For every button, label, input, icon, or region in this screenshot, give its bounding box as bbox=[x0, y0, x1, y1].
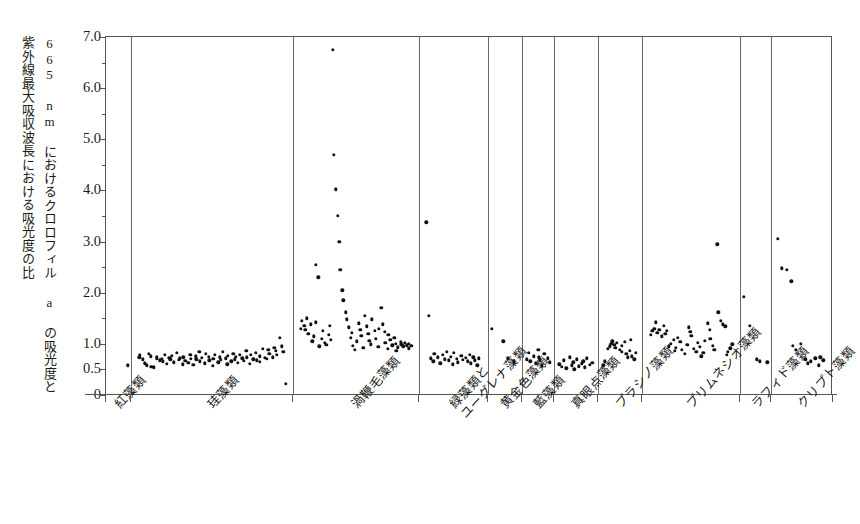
data-point bbox=[309, 323, 312, 326]
data-point bbox=[365, 325, 368, 328]
data-point bbox=[200, 356, 203, 359]
y-tick-label: 0.5 bbox=[83, 360, 101, 377]
data-point bbox=[341, 288, 344, 291]
data-point bbox=[314, 263, 317, 266]
data-point bbox=[329, 338, 332, 341]
data-point bbox=[680, 348, 683, 351]
y-tick-label: 4.0 bbox=[83, 181, 101, 198]
data-point bbox=[658, 328, 661, 331]
data-point bbox=[187, 361, 190, 364]
data-point bbox=[261, 347, 264, 350]
data-point bbox=[380, 306, 383, 309]
data-point bbox=[357, 322, 360, 325]
data-point bbox=[608, 345, 611, 348]
data-point bbox=[432, 360, 435, 363]
data-point bbox=[706, 322, 709, 325]
x-tick bbox=[832, 394, 833, 402]
data-point bbox=[320, 337, 323, 340]
data-point bbox=[345, 318, 348, 321]
data-point bbox=[583, 366, 586, 369]
data-point bbox=[649, 333, 652, 336]
data-point bbox=[300, 319, 303, 322]
data-point bbox=[577, 365, 580, 368]
data-point bbox=[626, 355, 629, 358]
data-point bbox=[304, 328, 307, 331]
data-point bbox=[248, 362, 251, 365]
x-tick bbox=[553, 394, 554, 402]
data-point bbox=[564, 367, 567, 370]
data-point bbox=[170, 354, 173, 357]
data-point bbox=[633, 357, 636, 360]
data-point bbox=[299, 327, 302, 330]
data-point bbox=[198, 360, 201, 363]
data-point bbox=[197, 350, 200, 353]
y-tick-label: 3.0 bbox=[83, 232, 101, 249]
data-point bbox=[349, 336, 352, 339]
data-point bbox=[620, 350, 623, 353]
group-divider bbox=[598, 37, 599, 395]
y-tick-label: 5.0 bbox=[83, 130, 101, 147]
data-point bbox=[374, 337, 377, 340]
data-point bbox=[629, 338, 632, 341]
data-point bbox=[254, 351, 257, 354]
data-point bbox=[445, 350, 448, 353]
data-point bbox=[674, 346, 677, 349]
data-point bbox=[149, 354, 152, 357]
data-point bbox=[236, 361, 239, 364]
data-point bbox=[628, 349, 631, 352]
data-point bbox=[163, 353, 166, 356]
data-point bbox=[327, 333, 330, 336]
data-point bbox=[321, 329, 324, 332]
x-tick bbox=[597, 394, 598, 402]
data-point bbox=[216, 361, 219, 364]
data-point bbox=[366, 332, 369, 335]
data-point bbox=[581, 360, 584, 363]
data-point bbox=[459, 354, 462, 357]
x-tick bbox=[521, 394, 522, 402]
data-point bbox=[213, 353, 216, 356]
data-point bbox=[758, 360, 761, 363]
data-point bbox=[672, 338, 675, 341]
data-point bbox=[219, 358, 222, 361]
data-point bbox=[347, 326, 350, 329]
data-point bbox=[181, 363, 184, 366]
data-point bbox=[281, 350, 284, 353]
data-point bbox=[351, 344, 354, 347]
data-point bbox=[325, 343, 328, 346]
x-tick bbox=[487, 394, 488, 402]
data-point bbox=[441, 353, 444, 356]
data-point bbox=[532, 354, 535, 357]
data-point bbox=[280, 345, 283, 348]
data-point bbox=[529, 360, 532, 363]
x-axis-category-labels: 紅藻類珪藻類渦鞭毛藻類緑藻類とユーグレナ藻類黄金色藻類藍藻類真眼点藻類プラシノ藻… bbox=[0, 394, 860, 524]
group-divider bbox=[522, 37, 523, 395]
data-point bbox=[664, 332, 667, 335]
x-tick bbox=[418, 394, 419, 402]
data-point bbox=[620, 344, 623, 347]
data-point bbox=[226, 363, 229, 366]
data-point bbox=[221, 350, 224, 353]
data-point bbox=[790, 280, 793, 283]
data-point bbox=[245, 355, 248, 358]
data-point bbox=[336, 214, 339, 217]
data-point bbox=[687, 326, 690, 329]
y-axis-line bbox=[105, 36, 106, 394]
data-point bbox=[245, 349, 248, 352]
data-point bbox=[359, 328, 362, 331]
data-point bbox=[573, 368, 576, 371]
data-point bbox=[396, 346, 399, 349]
data-point bbox=[377, 345, 380, 348]
data-point bbox=[278, 336, 281, 339]
data-point bbox=[709, 337, 712, 340]
data-point bbox=[360, 334, 363, 337]
data-point bbox=[817, 364, 820, 367]
data-point bbox=[258, 354, 261, 357]
data-point bbox=[211, 364, 214, 367]
group-divider bbox=[419, 37, 420, 395]
y-axis-tick-labels: 00.51.02.03.04.05.06.07.0 bbox=[55, 36, 101, 394]
y-tick-label: 7.0 bbox=[83, 28, 101, 45]
data-point bbox=[449, 355, 452, 358]
data-point bbox=[676, 336, 679, 339]
data-point bbox=[234, 355, 237, 358]
y-tick-label: 1.0 bbox=[83, 334, 101, 351]
